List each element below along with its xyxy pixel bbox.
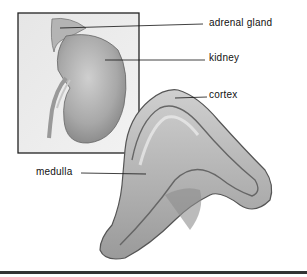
bottom-divider (0, 271, 307, 274)
kidney-inset (18, 13, 139, 153)
label-adrenal-gland: adrenal gland (209, 17, 272, 28)
label-medulla: medulla (36, 166, 72, 177)
label-kidney: kidney (209, 52, 239, 63)
label-cortex: cortex (209, 89, 237, 100)
diagram-canvas (0, 0, 307, 277)
